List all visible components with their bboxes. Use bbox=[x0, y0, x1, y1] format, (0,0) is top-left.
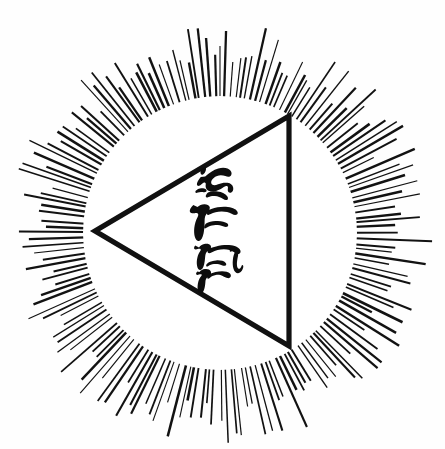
inner-white-disc bbox=[83, 96, 357, 370]
sunburst-ray bbox=[215, 55, 216, 98]
sunburst-ray bbox=[46, 227, 85, 228]
emblem-canvas: Radiant Triangle Emblem bbox=[0, 0, 445, 449]
sunburst-ray bbox=[221, 367, 222, 421]
radiant-triangle-emblem bbox=[0, 0, 445, 449]
sunburst-ray bbox=[19, 232, 86, 233]
